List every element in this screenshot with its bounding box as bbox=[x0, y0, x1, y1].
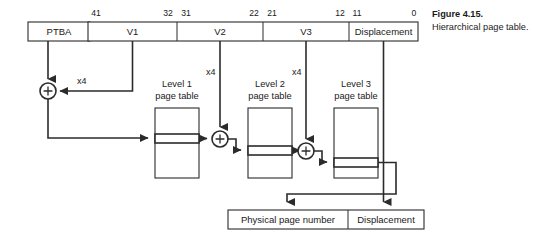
adder-level3: + bbox=[298, 143, 314, 159]
page-table-level3: Level 3 page table bbox=[334, 79, 378, 178]
wire-adder2-to-level2-table bbox=[228, 139, 241, 150]
bit-label-v1-low: 32 bbox=[163, 8, 173, 18]
figure-caption: Figure 4.15. Hierarchical page table. bbox=[432, 8, 556, 33]
page-table-level1-label-line1: Level 1 bbox=[162, 79, 192, 89]
page-table-level2-label-line1: Level 2 bbox=[255, 79, 285, 89]
figure-hierarchical-page-table: 41 32 31 22 21 12 11 0 PTBA V1 V2 V3 Dis… bbox=[0, 0, 560, 234]
wire-adder1-to-level1-table bbox=[48, 99, 148, 138]
bit-label-disp-high: 11 bbox=[353, 8, 362, 18]
page-table-level1: Level 1 page table bbox=[155, 79, 199, 178]
scale-label-x4-level2: x4 bbox=[206, 67, 216, 77]
page-table-level1-label-line2: page table bbox=[155, 91, 198, 101]
bit-range-labels: 41 32 31 22 21 12 11 0 bbox=[91, 8, 416, 18]
adder-level1: + bbox=[40, 83, 56, 99]
ptba-box: PTBA bbox=[28, 22, 90, 41]
physical-displacement-label: Displacement bbox=[357, 214, 415, 225]
page-table-level2-label-line2: page table bbox=[248, 91, 291, 101]
physical-page-number-label: Physical page number bbox=[241, 214, 335, 225]
va-field-displacement-label: Displacement bbox=[355, 26, 413, 37]
wire-adder3-to-level3-table bbox=[314, 151, 327, 162]
ptba-label: PTBA bbox=[47, 26, 72, 37]
diagram-canvas: 41 32 31 22 21 12 11 0 PTBA V1 V2 V3 Dis… bbox=[0, 0, 560, 234]
bit-label-v2-low: 22 bbox=[249, 8, 259, 18]
figure-caption-title: Figure 4.15. bbox=[432, 8, 556, 21]
va-field-v2-label: V2 bbox=[214, 26, 226, 37]
bit-label-v1-high: 41 bbox=[91, 8, 101, 18]
page-table-level3-label-line1: Level 3 bbox=[341, 79, 371, 89]
physical-address-box: Physical page number Displacement bbox=[228, 210, 424, 229]
wire-v2-to-adder2: x4 bbox=[206, 41, 220, 127]
wire-v3-to-adder3: x4 bbox=[292, 41, 306, 139]
bit-label-v3-low: 12 bbox=[335, 8, 345, 18]
bit-label-v3-high: 21 bbox=[267, 8, 277, 18]
figure-caption-text: Hierarchical page table. bbox=[432, 21, 556, 34]
bit-label-v2-high: 31 bbox=[181, 8, 191, 18]
bit-label-disp-low: 0 bbox=[412, 8, 417, 18]
va-field-v3-label: V3 bbox=[300, 26, 312, 37]
scale-label-x4-level3: x4 bbox=[292, 67, 302, 77]
va-field-v1-label: V1 bbox=[127, 26, 139, 37]
wire-v1-to-adder1: x4 bbox=[60, 41, 133, 91]
page-table-level3-label-line2: page table bbox=[334, 91, 377, 101]
page-table-level2: Level 2 page table bbox=[248, 79, 292, 178]
scale-label-x4-level1: x4 bbox=[77, 76, 87, 86]
adder-level2: + bbox=[212, 131, 228, 147]
virtual-address-box: V1 V2 V3 Displacement bbox=[88, 22, 418, 41]
